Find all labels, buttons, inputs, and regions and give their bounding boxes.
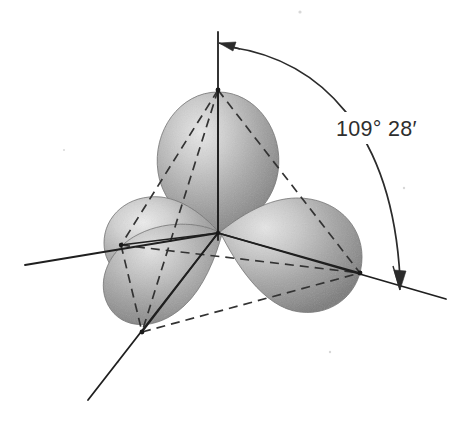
vertex-left: [119, 243, 123, 247]
vertex-top: [216, 88, 221, 93]
bond-angle-label: 109° 28′: [336, 117, 417, 141]
vertex-bottom-left: [140, 330, 145, 335]
figure-root: 109° 28′: [0, 0, 465, 423]
orbital-diagram-svg: 109° 28′: [0, 0, 465, 423]
vertex-right: [358, 271, 363, 276]
vertex-center: [216, 231, 220, 235]
